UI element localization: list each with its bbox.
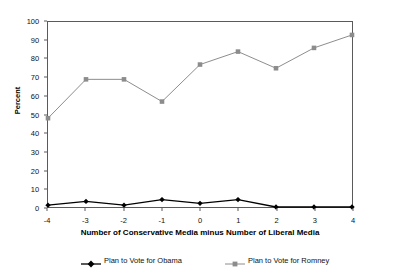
data-point-diamond [197,201,202,206]
series-canvas [48,22,352,207]
legend-item-obama: Plan to Vote for Obama [81,255,182,265]
y-axis-tick-label: 100 [27,17,39,26]
y-axis-tick-label: 40 [31,129,39,138]
data-point-square [122,77,127,82]
data-point-square [350,33,355,38]
x-axis-tick-mark [314,208,315,211]
data-point-square [236,49,241,54]
data-point-square [274,66,279,71]
data-point-square [84,77,89,82]
x-axis-tick-label: 1 [236,216,240,225]
legend-label-obama: Plan to Vote for Obama [104,256,182,265]
data-point-diamond [235,197,240,202]
x-axis-tick-label: -1 [158,216,165,225]
series-line [48,35,352,118]
y-axis-tick-label: 0 [35,204,39,213]
y-axis-tick-label: 80 [31,54,39,63]
y-axis-tick-label: 50 [31,110,39,119]
x-axis-tick-label: 4 [351,216,355,225]
series-romney [46,33,355,121]
x-axis-tick-mark [353,208,354,211]
x-axis-tick-label: 3 [313,216,317,225]
x-axis-tick-label: -3 [82,216,89,225]
x-axis-tick-mark [47,208,48,211]
data-point-diamond [83,199,88,204]
y-axis-tick-label: 60 [31,91,39,100]
plot-area [48,22,352,207]
x-axis-tick-label: 2 [274,216,278,225]
y-axis-tick-label: 10 [31,185,39,194]
legend-item-romney: Plan to Vote for Romney [225,255,329,265]
legend-label-romney: Plan to Vote for Romney [248,256,329,265]
x-axis-title: Number of Conservative Media minus Numbe… [47,228,353,237]
x-axis-tick-group: -4-3-2-101234 [47,208,353,228]
data-point-diamond [159,197,164,202]
y-axis-tick-label: 20 [31,166,39,175]
data-point-square [198,62,203,67]
x-axis-tick-mark [123,208,124,211]
x-axis-tick-label: -2 [120,216,127,225]
y-axis-tick-label: 70 [31,73,39,82]
data-point-square [312,46,317,51]
y-axis-tick-label: 30 [31,147,39,156]
x-axis-tick-label: -4 [44,216,51,225]
x-axis-tick-mark [200,208,201,211]
x-axis-tick-mark [238,208,239,211]
data-point-square [160,99,165,104]
x-axis-tick-label: 0 [198,216,202,225]
data-point-square [46,116,51,121]
chart-legend: Plan to Vote for Obama Plan to Vote for … [47,252,353,268]
y-axis-tick-label: 90 [31,35,39,44]
legend-marker-diamond-icon [81,255,101,265]
x-axis-tick-mark [85,208,86,211]
chart-container: Percent 0102030405060708090100 -4-3-2-10… [0,0,394,274]
plot-area-frame [47,21,353,208]
x-axis-tick-mark [161,208,162,211]
legend-marker-square-icon [225,255,245,265]
x-axis-tick-mark [276,208,277,211]
y-axis-tick-group: 0102030405060708090100 [0,21,47,208]
